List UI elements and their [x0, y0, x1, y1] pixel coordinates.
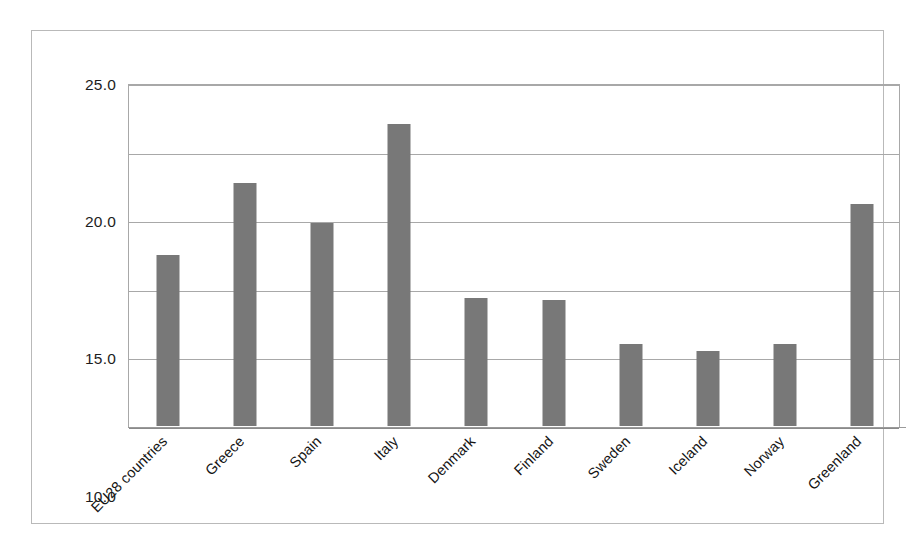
x-axis-label-denmark: Denmark: [425, 433, 478, 486]
x-axis-label-sweden: Sweden: [584, 433, 633, 482]
x-axis-label-norway: Norway: [741, 433, 787, 479]
bar-greenland[interactable]: [851, 204, 874, 426]
x-axis-line: [128, 427, 906, 428]
bar-eu28-countries[interactable]: [156, 255, 179, 427]
bar-greece[interactable]: [233, 183, 256, 426]
bar-norway[interactable]: [774, 344, 797, 426]
y-axis-tick-label: 25.0: [85, 76, 129, 94]
plot-area: 0.05.010.015.020.025.0: [128, 84, 900, 427]
x-axis-label-spain: Spain: [286, 433, 324, 471]
bar-finland[interactable]: [542, 300, 565, 426]
bar-iceland[interactable]: [697, 351, 720, 426]
bar-spain[interactable]: [311, 223, 334, 426]
gridline-0.0: 0.0: [129, 428, 899, 429]
y-axis-tick-label: 15.0: [85, 350, 129, 368]
x-axis-label-finland: Finland: [510, 433, 555, 478]
gridline-25.0: 25.0: [129, 85, 899, 86]
x-axis-label-italy: Italy: [371, 433, 401, 463]
bar-italy[interactable]: [388, 124, 411, 426]
figure-frame: 0.05.010.015.020.025.0 EU28 countriesGre…: [31, 30, 884, 524]
x-axis-label-iceland: Iceland: [665, 433, 710, 478]
bar-denmark[interactable]: [465, 298, 488, 426]
x-axis-label-greece: Greece: [202, 433, 247, 478]
x-axis-label-greenland: Greenland: [805, 433, 865, 493]
gridline-20.0: 20.0: [129, 154, 899, 155]
bar-sweden[interactable]: [619, 344, 642, 426]
y-axis-tick-label: 20.0: [85, 213, 129, 231]
